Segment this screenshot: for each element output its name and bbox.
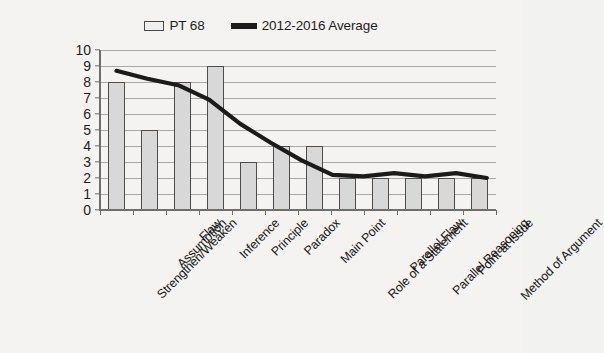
x-axis-label: Main Point [337,216,387,266]
gridline [100,98,496,99]
gridline [100,50,496,51]
bar [405,178,422,210]
legend-item-line-series: 2012-2016 Average [231,18,378,33]
plot-area: 012345678910 [100,50,496,210]
y-axis-tick-label: 1 [83,187,91,201]
bar [438,178,455,210]
bar [141,130,158,210]
x-axis-labels: Strengthen/WeakenAssumptionFlawInference… [100,210,496,353]
legend-bar-swatch-icon [144,21,164,31]
bar [339,178,356,210]
gridline [100,194,496,195]
bar [108,82,125,210]
y-axis-tick-label: 10 [75,43,91,57]
y-axis-tick-label: 0 [83,203,91,217]
gridline [100,114,496,115]
y-axis-tick-label: 3 [83,155,91,169]
gridline [100,162,496,163]
bar [174,82,191,210]
gridline [100,82,496,83]
y-axis-tick-label: 2 [83,171,91,185]
gridline [100,178,496,179]
x-axis-label: Strengthen/Weaken [154,216,239,301]
gridline [100,130,496,131]
y-axis-tick-label: 8 [83,75,91,89]
bar [240,162,257,210]
y-axis-tick-label: 5 [83,123,91,137]
x-axis-label: Point at Issue [474,216,536,278]
legend-label-bar-series: PT 68 [169,18,204,33]
x-axis-tick-mark [496,210,497,215]
bar [372,178,389,210]
gridline [100,146,496,147]
y-axis-tick-label: 6 [83,107,91,121]
y-axis-tick-label: 7 [83,91,91,105]
bar [207,66,224,210]
bar [471,178,488,210]
bar [306,146,323,210]
chart-legend: PT 68 2012-2016 Average [0,18,522,33]
bar [273,146,290,210]
x-axis-label: Parallel Flaw [407,216,466,275]
legend-item-bar-series: PT 68 [144,18,204,33]
y-axis-line [99,50,101,210]
legend-label-line-series: 2012-2016 Average [262,18,378,33]
y-axis-tick-label: 4 [83,139,91,153]
legend-line-swatch-icon [231,23,257,29]
gridline [100,66,496,67]
y-axis-tick-label: 9 [83,59,91,73]
